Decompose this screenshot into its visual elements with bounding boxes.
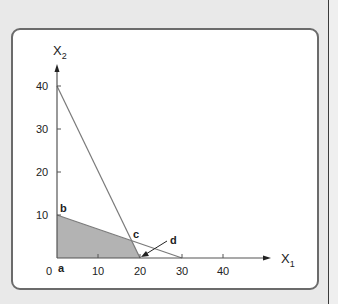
d-pointer-arrow-icon [141,251,149,257]
x-tick-label: 40 [217,265,229,277]
y-tick-label: 30 [36,123,48,135]
y-tick-label: 20 [36,166,48,178]
x-tick-label: 30 [176,265,188,277]
x-tick-label: 10 [92,265,104,277]
point-label-d: d [170,234,177,246]
feasible-region [57,215,140,258]
x-axis-arrow-icon [263,256,271,261]
x-tick-label: 20 [134,265,146,277]
point-label-a: a [58,262,65,274]
y-tick-label: 10 [36,209,48,221]
point-label-b: b [60,202,67,214]
point-label-c: c [133,228,139,240]
y-axis-arrow-icon [55,64,60,72]
origin-label: 0 [46,265,52,277]
y-axis-label: X2 [53,43,67,61]
x-axis-label: X1 [281,251,295,269]
y-tick-label: 40 [36,80,48,92]
lp-graph: 10 20 30 40 0 10 20 30 40 X2 X1 a b c d [0,0,338,304]
